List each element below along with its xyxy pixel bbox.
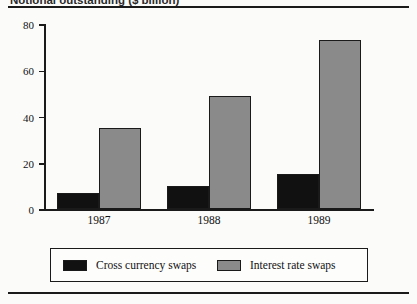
y-axis-tick [39,117,44,119]
x-axis-label-1989: 1989 [308,214,331,226]
legend-item-1: Interest rate swaps [217,249,336,281]
bar-1988-series-0 [167,186,209,209]
bar-1988-series-1 [209,96,251,209]
y-axis-tick-label: 60 [23,66,34,77]
y-axis-tick-label: 20 [23,158,34,169]
bar-1989-series-1 [319,40,361,209]
legend-swatch-icon-1 [217,260,241,271]
legend-item-0: Cross currency swaps [63,249,196,281]
bottom-horizontal-rule [8,292,409,294]
bar-1987-series-1 [99,128,141,209]
bar-chart-plot-area: 020406080 198719881989 [44,24,374,210]
figure-container: Notional outstanding ($ billion) 0204060… [0,0,417,304]
bar-1989-series-0 [277,174,319,209]
legend-swatch-icon-0 [63,260,87,271]
bar-1987-series-0 [57,193,99,209]
y-axis-tick-label: 40 [23,112,34,123]
y-axis-tick [39,71,44,73]
y-axis-tick [39,209,44,211]
y-axis-tick-label: 80 [23,20,34,31]
legend-label-0: Cross currency swaps [96,259,196,271]
legend-label-1: Interest rate swaps [250,259,336,271]
top-horizontal-rule [8,6,409,8]
x-axis-label-1987: 1987 [88,214,111,226]
chart-legend: Cross currency swapsInterest rate swaps [50,248,368,282]
x-axis-line [44,209,374,211]
y-axis-tick [39,24,44,26]
x-axis-label-1988: 1988 [198,214,221,226]
y-axis-tick [39,163,44,165]
y-axis-line [44,24,46,210]
y-axis-tick-label: 0 [29,205,35,216]
